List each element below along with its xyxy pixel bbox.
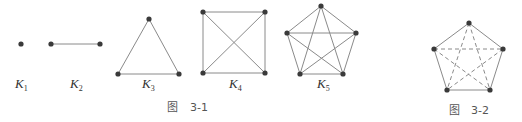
graph-k4: K4 — [200, 9, 267, 93]
dashed-edge — [469, 23, 490, 90]
vertex — [48, 41, 53, 46]
edge — [287, 33, 343, 74]
vertex — [262, 70, 267, 75]
figure-3-2-caption-number: 3-2 — [471, 104, 489, 117]
graph-label: K4 — [228, 76, 242, 93]
vertex — [284, 30, 289, 35]
solid-edge — [434, 49, 447, 90]
diagram-canvas: K1K2K3K4K5 图 3-1 图 3-2 — [0, 0, 522, 122]
solid-edge — [469, 23, 503, 49]
vertex — [297, 71, 302, 76]
edge — [300, 6, 321, 74]
solid-edge — [434, 23, 469, 49]
vertex — [500, 46, 505, 51]
vertex — [318, 3, 323, 8]
vertex — [200, 9, 205, 14]
solid-edge — [490, 49, 503, 90]
vertex — [353, 30, 358, 35]
figure-3-2-caption-prefix: 图 — [449, 104, 460, 117]
vertex — [262, 9, 267, 14]
edge — [149, 19, 179, 74]
graph-label: K2 — [69, 76, 83, 93]
figure-3-1-complete-graphs: K1K2K3K4K5 — [14, 3, 359, 93]
figure-3-2-pentagon-graph — [431, 20, 505, 92]
vertex — [200, 70, 205, 75]
dashed-edge — [447, 23, 469, 90]
vertex — [487, 87, 492, 92]
dashed-edge — [434, 49, 490, 90]
graph-k3: K3 — [115, 16, 181, 93]
vertex — [18, 41, 23, 46]
graph-label: K1 — [14, 76, 28, 93]
vertex — [466, 20, 471, 25]
vertex — [97, 41, 102, 46]
graph-label: K5 — [316, 76, 330, 93]
dashed-edge — [447, 49, 503, 90]
edge — [321, 6, 343, 74]
vertex — [115, 71, 120, 76]
edge — [300, 33, 356, 74]
graph-label: K3 — [141, 76, 155, 93]
edge — [287, 33, 300, 74]
edge — [118, 19, 149, 74]
vertex — [431, 46, 436, 51]
graph-k5: K5 — [284, 3, 358, 93]
edge — [343, 33, 356, 74]
graph-k1: K1 — [14, 41, 28, 93]
edge — [321, 6, 356, 33]
figure-3-1-caption-prefix: 图 — [167, 101, 178, 114]
figure-3-1-caption-number: 3-1 — [190, 101, 208, 114]
vertex — [146, 16, 151, 21]
vertex — [340, 71, 345, 76]
vertex — [444, 87, 449, 92]
edge — [287, 6, 321, 33]
vertex — [176, 71, 181, 76]
graph-k2: K2 — [48, 41, 102, 93]
